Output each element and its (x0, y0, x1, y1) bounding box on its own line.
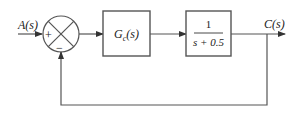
feedback-path (61, 34, 267, 105)
controller-block: Gc(s) (103, 11, 150, 56)
input-label: A(s) (17, 18, 38, 32)
output-label: C(s) (264, 17, 285, 31)
minus-sign: − (56, 41, 63, 55)
plus-sign: + (45, 28, 52, 42)
summing-junction: + − (43, 16, 79, 55)
plant-block: 1 s + 0.5 (186, 11, 231, 56)
plant-denominator: s + 0.5 (193, 36, 224, 48)
plant-numerator: 1 (206, 18, 212, 30)
input-signal: A(s) (17, 18, 42, 34)
controller-label: Gc(s) (114, 27, 139, 43)
block-diagram: A(s) + − Gc(s) 1 s + 0.5 C(s) (0, 0, 299, 113)
